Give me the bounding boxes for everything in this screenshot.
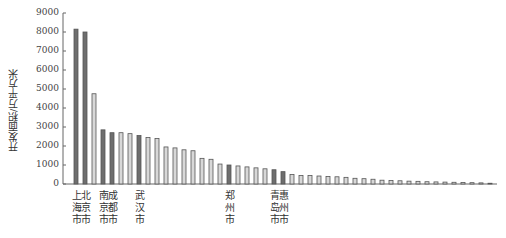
y-tick-label: 9000 xyxy=(29,7,59,17)
bar xyxy=(452,182,456,184)
bar xyxy=(317,176,321,184)
y-tick-label: 7000 xyxy=(29,45,59,55)
bar xyxy=(272,170,276,184)
y-tick-label: 6000 xyxy=(29,64,59,74)
bar xyxy=(119,133,123,184)
bar xyxy=(227,165,231,184)
bar xyxy=(443,182,447,184)
bar xyxy=(218,164,222,184)
bar xyxy=(191,151,195,184)
y-tick-label: 0 xyxy=(29,178,59,188)
bar xyxy=(110,133,114,184)
bar-chart: 开发面积/万平方米 上海市北京市南京市成都市武汉市郑州市青岛市惠州市 01000… xyxy=(0,0,506,238)
x-tick-label: 北京市 xyxy=(80,190,91,226)
bar xyxy=(92,94,96,184)
bar xyxy=(407,181,411,184)
y-tick-label: 4000 xyxy=(29,102,59,112)
y-tick-label: 5000 xyxy=(29,83,59,93)
x-tick-label: 惠州市 xyxy=(278,190,289,226)
bar xyxy=(479,183,483,184)
bar xyxy=(470,183,474,184)
bar xyxy=(281,172,285,184)
bar xyxy=(155,138,159,184)
bar xyxy=(299,175,303,184)
bar xyxy=(434,182,438,184)
bar xyxy=(182,150,186,184)
bar xyxy=(335,177,339,184)
bar xyxy=(164,147,168,184)
bar xyxy=(83,32,87,184)
bar xyxy=(245,167,249,184)
bar xyxy=(137,136,141,184)
bar xyxy=(74,29,78,184)
bar xyxy=(209,159,213,184)
bar xyxy=(173,148,177,184)
x-tick-label: 郑州市 xyxy=(224,190,235,226)
bar xyxy=(254,168,258,184)
bar xyxy=(416,181,420,184)
bar xyxy=(344,177,348,184)
y-tick-label: 8000 xyxy=(29,26,59,36)
bar xyxy=(200,158,204,184)
bar xyxy=(362,179,366,184)
bar xyxy=(353,178,357,184)
bar xyxy=(425,182,429,184)
x-tick-label: 成都市 xyxy=(107,190,118,226)
bar xyxy=(380,180,384,184)
bar xyxy=(236,166,240,184)
y-tick-label: 3000 xyxy=(29,121,59,131)
bar xyxy=(389,181,393,184)
bar xyxy=(290,175,294,185)
bar xyxy=(146,137,150,184)
bar xyxy=(488,183,492,184)
bar xyxy=(308,175,312,184)
bar xyxy=(263,169,267,184)
bar xyxy=(461,182,465,184)
bar xyxy=(398,181,402,184)
bar xyxy=(371,179,375,184)
bar xyxy=(326,176,330,184)
y-tick-label: 2000 xyxy=(29,140,59,150)
bar xyxy=(101,130,105,184)
x-tick-label: 武汉市 xyxy=(134,190,145,226)
bar xyxy=(128,134,132,184)
y-tick-label: 1000 xyxy=(29,159,59,169)
